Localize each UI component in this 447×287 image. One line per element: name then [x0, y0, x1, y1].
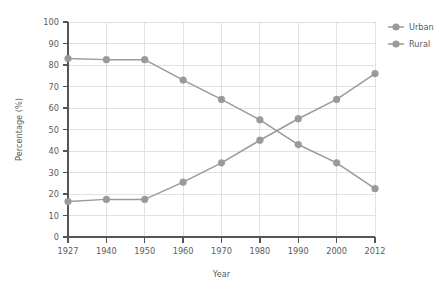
data-point-marker [65, 198, 72, 205]
legend-item-urban[interactable]: Urban [388, 22, 434, 32]
legend: UrbanRural [388, 22, 434, 49]
axes [63, 22, 375, 243]
legend-label: Urban [409, 22, 434, 32]
data-point-marker [141, 56, 148, 63]
x-tick-label: 1950 [134, 246, 155, 256]
data-point-marker [218, 159, 225, 166]
x-tick-label: 1990 [288, 246, 309, 256]
data-point-marker [295, 141, 302, 148]
y-tick-label: 30 [49, 168, 59, 178]
legend-marker-icon [392, 23, 399, 30]
data-point-marker [141, 196, 148, 203]
data-point-marker [333, 96, 340, 103]
y-tick-label: 50 [49, 125, 59, 135]
data-point-marker [65, 55, 72, 62]
x-tick-label: 1927 [58, 246, 79, 256]
y-tick-label: 40 [49, 146, 59, 156]
data-point-marker [180, 77, 187, 84]
x-tick-label: 1980 [249, 246, 270, 256]
y-tick-label: 0 [54, 232, 59, 242]
data-point-marker [372, 185, 379, 192]
x-tick-label: 2000 [326, 246, 347, 256]
y-tick-label: 100 [43, 17, 59, 27]
data-point-marker [333, 159, 340, 166]
x-tick-label: 2012 [365, 246, 386, 256]
y-tick-label: 10 [49, 211, 59, 221]
data-point-marker [180, 179, 187, 186]
data-point-marker [256, 116, 263, 123]
y-axis-title: Percentage (%) [14, 98, 24, 161]
y-tick-label: 70 [49, 82, 59, 92]
data-point-marker [295, 115, 302, 122]
legend-item-rural[interactable]: Rural [388, 39, 430, 49]
x-tick-labels: 192719401950196019701980199020002012 [58, 246, 386, 256]
x-tick-label: 1940 [96, 246, 117, 256]
legend-label: Rural [409, 39, 430, 49]
axis-titles: YearPercentage (%) [14, 98, 231, 279]
y-tick-label: 20 [49, 189, 59, 199]
data-point-marker [103, 196, 110, 203]
grid-lines [68, 22, 375, 237]
data-point-marker [256, 137, 263, 144]
x-axis-title: Year [212, 269, 231, 279]
data-point-marker [372, 70, 379, 77]
x-tick-label: 1960 [173, 246, 194, 256]
y-tick-label: 90 [49, 39, 59, 49]
data-point-marker [103, 56, 110, 63]
y-tick-label: 60 [49, 103, 59, 113]
y-tick-label: 80 [49, 60, 59, 70]
line-chart: 0102030405060708090100 19271940195019601… [0, 0, 447, 287]
legend-marker-icon [392, 40, 399, 47]
x-tick-label: 1970 [211, 246, 232, 256]
data-point-marker [218, 96, 225, 103]
chart-canvas: 0102030405060708090100 19271940195019601… [0, 0, 447, 287]
y-tick-labels: 0102030405060708090100 [43, 17, 59, 242]
